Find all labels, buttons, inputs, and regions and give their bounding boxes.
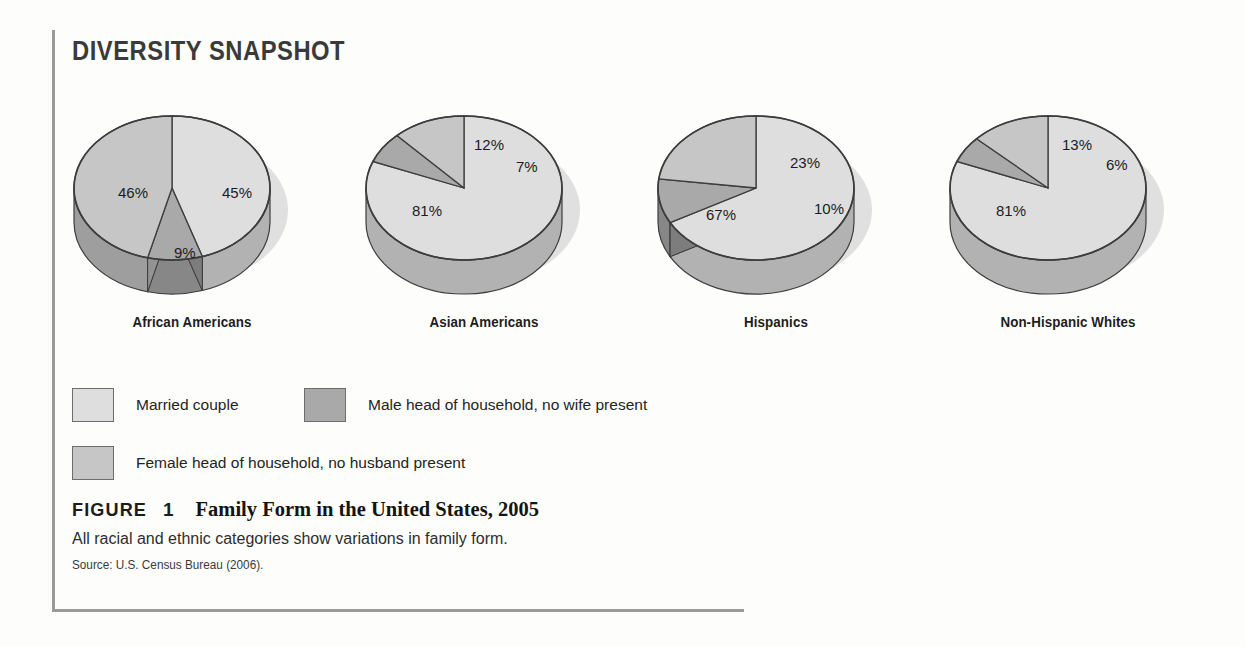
box-bottom-rule <box>52 609 744 612</box>
pie-slice-value: 12% <box>474 136 504 153</box>
pie-slice <box>659 116 756 188</box>
figure-caption-block: FIGURE 1 Family Form in the United State… <box>72 498 772 572</box>
pie-chart-1: 45%9%46%African Americans <box>62 96 322 346</box>
pie-slice-value: 9% <box>174 244 196 261</box>
pie-category-label: Hispanics <box>656 314 895 330</box>
diversity-snapshot-heading: DIVERSITY SNAPSHOT <box>72 36 345 67</box>
pie-slice-value: 10% <box>814 200 844 217</box>
legend-item-female-head: Female head of household, no husband pre… <box>72 446 465 480</box>
pie-category-label: Non-Hispanic Whites <box>948 314 1187 330</box>
pie-slice-value: 67% <box>706 206 736 223</box>
pie-category-label: African Americans <box>72 314 311 330</box>
pie-slice-value: 81% <box>412 202 442 219</box>
pie-chart-4: 81%6%13%Non-Hispanic Whites <box>938 96 1198 346</box>
figure-number: 1 <box>163 499 174 521</box>
legend-item-married: Married couple <box>72 388 239 422</box>
pie-slice-value: 46% <box>118 184 148 201</box>
figure-subtitle: All racial and ethnic categories show va… <box>72 530 772 548</box>
figure-source: Source: U.S. Census Bureau (2006). <box>72 558 730 572</box>
figure-title: Family Form in the United States, 2005 <box>196 498 539 521</box>
legend-label-male-head: Male head of household, no wife present <box>368 396 647 414</box>
pie-chart-row: 45%9%46%African Americans81%7%12%Asian A… <box>62 96 1192 346</box>
pie-slice-value: 13% <box>1062 136 1092 153</box>
pie-category-label: Asian Americans <box>364 314 603 330</box>
figure-word: FIGURE <box>72 499 147 521</box>
figure-title-line: FIGURE 1 Family Form in the United State… <box>72 498 772 521</box>
legend-item-male-head: Male head of household, no wife present <box>304 388 647 422</box>
legend-label-female-head: Female head of household, no husband pre… <box>136 454 465 472</box>
pie-chart-3: 67%10%23%Hispanics <box>646 96 906 346</box>
pie-slice-value: 45% <box>222 184 252 201</box>
legend-swatch-male-head <box>304 388 346 422</box>
legend-swatch-married <box>72 388 114 422</box>
pie-chart-2: 81%7%12%Asian Americans <box>354 96 614 346</box>
legend-swatch-female-head <box>72 446 114 480</box>
box-left-rule <box>52 30 55 612</box>
pie-slice-value: 7% <box>516 158 538 175</box>
pie-slice-value: 81% <box>996 202 1026 219</box>
pie-slice-value: 6% <box>1106 156 1128 173</box>
legend-label-married: Married couple <box>136 396 239 414</box>
pie-slice-value: 23% <box>790 154 820 171</box>
